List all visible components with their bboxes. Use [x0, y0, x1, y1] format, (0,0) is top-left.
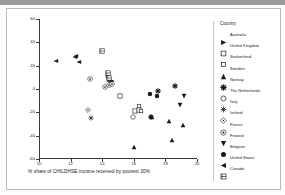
y-tick — [36, 42, 39, 43]
legend-item-label: France — [230, 122, 243, 127]
data-point — [147, 84, 153, 90]
legend-marker-icon — [220, 77, 227, 84]
legend-item-label: Norway — [230, 77, 244, 82]
legend-marker-icon — [220, 144, 227, 151]
data-point — [154, 85, 160, 91]
data-point — [75, 51, 81, 57]
legend-item-australia[interactable]: Australia — [220, 30, 280, 40]
legend-item-belgium[interactable]: Belgium — [220, 142, 280, 152]
legend-item-finland[interactable]: Finland — [220, 131, 280, 141]
y-tick-label: 40 — [15, 40, 35, 44]
legend-marker-icon — [220, 88, 227, 95]
legend-item-sweden[interactable]: Sweden — [220, 64, 280, 74]
legend: Country AustraliaUnited KingdomSwitzerla… — [213, 21, 279, 181]
y-tick-label: 20 — [15, 64, 35, 68]
legend-item-label: Ireland — [230, 110, 243, 115]
y-tick — [36, 19, 39, 20]
y-tick-label: 60 — [15, 17, 35, 21]
x-tick-label: 20 — [189, 162, 205, 166]
scatter-plot-area: 6040200-20-40-60 101214161820 — [39, 19, 197, 159]
data-point — [131, 136, 137, 142]
x-axis-title: % share of CHILDHSE income received by p… — [1, 169, 177, 174]
data-point — [181, 85, 187, 91]
legend-item-label: Australia — [230, 32, 246, 37]
y-tick — [36, 136, 39, 137]
legend-item-the-netherlands[interactable]: The Netherlands — [220, 86, 280, 96]
data-point — [87, 68, 93, 74]
x-tick-label: 12 — [63, 162, 79, 166]
legend-item-label: Italy — [230, 99, 238, 104]
legend-item-label: The Netherlands — [230, 88, 260, 93]
data-point — [166, 110, 172, 116]
legend-item-norway[interactable]: Norway — [220, 75, 280, 85]
legend-item-label: Belgium — [230, 144, 245, 149]
screenshot-canvas: 6040200-20-40-60 101214161820 Residual c… — [0, 0, 285, 195]
legend-item-switzerland[interactable]: Switzerland — [220, 52, 280, 62]
legend-item-france[interactable]: France — [220, 120, 280, 130]
data-point — [138, 100, 144, 106]
data-point — [148, 106, 154, 112]
y-tick — [36, 66, 39, 67]
legend-item-canada[interactable]: Canada — [220, 164, 280, 174]
chart-figure: 6040200-20-40-60 101214161820 Residual c… — [6, 8, 281, 190]
legend-marker-icon — [220, 110, 227, 117]
legend-item-united-kingdom[interactable]: United Kingdom — [220, 41, 280, 51]
legend-marker-icon — [220, 43, 227, 50]
data-point — [172, 75, 178, 81]
legend-marker-icon — [220, 166, 227, 173]
data-point — [117, 85, 123, 91]
legend-item-label: United States — [230, 155, 255, 160]
legend-item-label: Finland — [230, 133, 243, 138]
y-tick-label: -20 — [15, 110, 35, 114]
legend-marker-icon — [220, 122, 227, 129]
y-tick-label: 0 — [15, 87, 35, 91]
y-tick-label: -40 — [15, 134, 35, 138]
y-tick — [36, 112, 39, 113]
data-point — [105, 67, 111, 73]
legend-item-label: Switzerland — [230, 54, 251, 59]
legend-marker-icon — [220, 155, 227, 162]
x-tick-label: 16 — [126, 162, 142, 166]
data-point — [180, 114, 186, 120]
legend-marker-icon — [220, 66, 227, 73]
y-tick — [36, 89, 39, 90]
data-point — [177, 94, 183, 100]
y-axis-line — [39, 19, 40, 159]
legend-marker-icon — [220, 99, 227, 106]
y-tick-label: -60 — [15, 157, 35, 161]
data-point — [169, 129, 175, 135]
x-tick-label: 14 — [94, 162, 110, 166]
legend-item-label: United Kingdom — [230, 43, 259, 48]
data-point — [52, 50, 58, 56]
data-point — [130, 106, 136, 112]
legend-item-ireland[interactable]: Ireland — [220, 108, 280, 118]
x-tick-label: 10 — [31, 162, 47, 166]
legend-item-label: Sweden — [230, 66, 245, 71]
x-tick-label: 18 — [157, 162, 173, 166]
data-point — [99, 40, 105, 46]
data-point — [85, 99, 91, 105]
legend-marker-icon — [220, 54, 227, 61]
x-axis-line — [39, 158, 197, 159]
legend-marker-icon — [220, 32, 227, 39]
legend-title: Country — [220, 21, 236, 26]
legend-item-italy[interactable]: Italy — [220, 97, 280, 107]
legend-marker-icon — [220, 133, 227, 140]
legend-item-united-states[interactable]: United States — [220, 153, 280, 163]
legend-item-label: Canada — [230, 166, 244, 171]
window-top-bar — [0, 0, 285, 5]
